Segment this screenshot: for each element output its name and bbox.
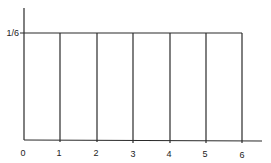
x-tick-label: 1 — [56, 148, 61, 158]
x-tick-label: 4 — [166, 149, 171, 159]
uniform-distribution-chart: 1/6 0 1 2 3 4 5 6 — [0, 0, 271, 163]
x-tick-label: 5 — [202, 149, 207, 159]
bar-edges — [60, 33, 242, 143]
x-tick-label: 2 — [93, 148, 98, 158]
y-tick-label: 1/6 — [6, 28, 19, 38]
x-tick-labels: 0 1 2 3 4 5 6 — [20, 148, 244, 160]
x-tick-label: 6 — [239, 150, 244, 160]
x-tick-label: 3 — [130, 149, 135, 159]
x-tick-label: 0 — [20, 148, 25, 158]
